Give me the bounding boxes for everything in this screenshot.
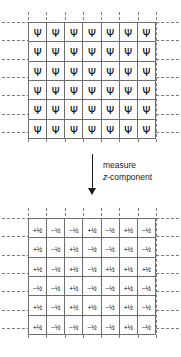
spin-value-cell: −½ <box>47 219 65 238</box>
wavefunction-cell-value: Ψ <box>142 105 150 116</box>
spin-value-cell-value: −½ <box>51 285 60 292</box>
grid-row: +½−½+½−½+½+½+½ <box>29 257 156 276</box>
wavefunction-cell: Ψ <box>47 42 65 61</box>
wavefunction-cell: Ψ <box>83 42 101 61</box>
spin-value-cell-value: −½ <box>142 324 151 331</box>
wavefunction-cell: Ψ <box>29 42 47 61</box>
grid-row: ΨΨΨΨΨΨΨ <box>29 119 156 138</box>
wavefunction-cell: Ψ <box>101 23 119 42</box>
spin-value-cell-value: −½ <box>142 227 151 234</box>
spin-value-cell-value: +½ <box>87 227 96 234</box>
wavefunction-cell: Ψ <box>65 42 83 61</box>
wavefunction-cell-value: Ψ <box>106 86 114 97</box>
guide-line-vertical <box>156 12 157 142</box>
wavefunction-cell: Ψ <box>119 61 137 80</box>
grid-row: ΨΨΨΨΨΨΨ <box>29 100 156 119</box>
wavefunction-cell-value: Ψ <box>70 67 78 78</box>
wavefunction-cell-value: Ψ <box>124 28 132 39</box>
wavefunction-cell-value: Ψ <box>34 125 42 136</box>
wavefunction-grid: ΨΨΨΨΨΨΨΨΨΨΨΨΨΨΨΨΨΨΨΨΨΨΨΨΨΨΨΨΨΨΨΨΨΨΨΨΨΨΨΨ… <box>28 22 156 132</box>
wavefunction-cell: Ψ <box>101 61 119 80</box>
wavefunction-cell-value: Ψ <box>52 67 60 78</box>
spin-value-cell: −½ <box>47 315 65 334</box>
wavefunction-cell-value: Ψ <box>124 86 132 97</box>
spin-value-cell: −½ <box>47 296 65 315</box>
spin-value-cell: +½ <box>119 257 137 276</box>
spin-value-cell-value: +½ <box>124 324 133 331</box>
spin-value-cell: +½ <box>119 276 137 295</box>
spin-value-cell-value: −½ <box>106 246 115 253</box>
spin-value-cell: −½ <box>83 238 101 257</box>
spin-value-cell: −½ <box>101 315 119 334</box>
spin-value-cell-value: +½ <box>124 285 133 292</box>
spin-value-cell-value: +½ <box>124 266 133 273</box>
wavefunction-cell: Ψ <box>83 100 101 119</box>
spin-value-cell-value: +½ <box>33 304 42 311</box>
grid-row: +½−½−½+½−½+½−½ <box>29 219 156 238</box>
spin-value-cell-value: −½ <box>51 266 60 273</box>
wavefunction-cell: Ψ <box>137 80 155 99</box>
down-arrow-head <box>88 188 96 195</box>
spin-value-cell: +½ <box>137 257 155 276</box>
wavefunction-cell: Ψ <box>65 100 83 119</box>
spin-value-cell: −½ <box>101 238 119 257</box>
measurement-caption: measure z-component <box>103 160 181 183</box>
spin-value-cell-value: −½ <box>69 227 78 234</box>
wavefunction-cell: Ψ <box>101 42 119 61</box>
spin-value-cell: +½ <box>119 296 137 315</box>
down-arrow-shaft <box>92 154 93 190</box>
spin-value-cell: +½ <box>65 276 83 295</box>
wavefunction-cell: Ψ <box>65 119 83 138</box>
wavefunction-cell-value: Ψ <box>52 86 60 97</box>
spin-value-cell-value: −½ <box>106 227 115 234</box>
spin-value-cell: −½ <box>101 219 119 238</box>
wavefunction-cell: Ψ <box>47 80 65 99</box>
spin-value-cell-value: −½ <box>69 324 78 331</box>
wavefunction-cell: Ψ <box>47 100 65 119</box>
spin-value-cell: +½ <box>83 219 101 238</box>
grid-row: −½−½+½−½−½+½−½ <box>29 276 156 295</box>
wavefunction-cell-value: Ψ <box>34 67 42 78</box>
spin-value-cell-value: +½ <box>142 266 151 273</box>
spin-value-cell: −½ <box>101 276 119 295</box>
spin-value-cell: −½ <box>83 315 101 334</box>
wavefunction-cell-value: Ψ <box>142 28 150 39</box>
wavefunction-cell: Ψ <box>119 23 137 42</box>
wavefunction-cell: Ψ <box>101 119 119 138</box>
spin-value-cell-value: −½ <box>87 324 96 331</box>
wavefunction-cell: Ψ <box>65 80 83 99</box>
wavefunction-cell-value: Ψ <box>70 47 78 58</box>
wavefunction-cell-value: Ψ <box>142 125 150 136</box>
spin-value-cell-value: −½ <box>51 304 60 311</box>
spin-value-cell-value: −½ <box>87 285 96 292</box>
caption-line-1: measure <box>103 160 181 172</box>
wavefunction-cell: Ψ <box>119 80 137 99</box>
wavefunction-cell: Ψ <box>83 119 101 138</box>
caption-line-2: z-component <box>103 172 181 184</box>
wavefunction-cell: Ψ <box>29 119 47 138</box>
spin-value-cell: +½ <box>83 296 101 315</box>
wavefunction-cell-value: Ψ <box>88 67 96 78</box>
wavefunction-cell: Ψ <box>65 61 83 80</box>
spin-z-grid-table: +½−½−½+½−½+½−½+½−½+½−½−½+½−½+½−½+½−½+½+½… <box>28 218 156 335</box>
spin-value-cell-value: +½ <box>69 246 78 253</box>
spin-value-cell-value: +½ <box>87 304 96 311</box>
spin-value-cell: −½ <box>101 296 119 315</box>
spin-value-cell: +½ <box>119 219 137 238</box>
spin-value-cell-value: −½ <box>51 324 60 331</box>
spin-value-cell-value: −½ <box>106 304 115 311</box>
wavefunction-cell-value: Ψ <box>88 47 96 58</box>
spin-value-cell-value: +½ <box>69 285 78 292</box>
spin-value-cell: +½ <box>65 257 83 276</box>
spin-value-cell-value: +½ <box>124 246 133 253</box>
spin-value-cell-value: −½ <box>142 246 151 253</box>
wavefunction-cell: Ψ <box>83 23 101 42</box>
spin-value-cell: −½ <box>65 315 83 334</box>
spin-value-cell: −½ <box>137 315 155 334</box>
spin-value-cell-value: +½ <box>69 266 78 273</box>
wavefunction-cell: Ψ <box>83 61 101 80</box>
wavefunction-cell-value: Ψ <box>70 28 78 39</box>
spin-value-cell: −½ <box>29 276 47 295</box>
quantum-measurement-figure: ΨΨΨΨΨΨΨΨΨΨΨΨΨΨΨΨΨΨΨΨΨΨΨΨΨΨΨΨΨΨΨΨΨΨΨΨΨΨΨΨ… <box>0 0 181 357</box>
spin-value-cell: −½ <box>47 276 65 295</box>
